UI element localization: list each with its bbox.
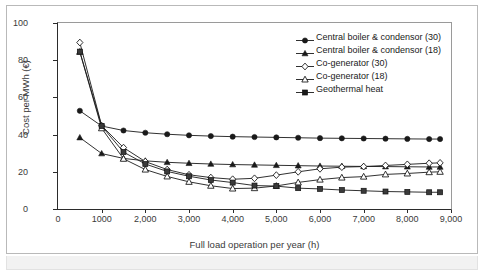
data-point — [405, 136, 410, 141]
data-point — [427, 190, 432, 195]
data-point — [426, 160, 432, 167]
filled-triangle-icon — [294, 45, 316, 56]
data-point — [77, 49, 82, 54]
y-tick-label: 60 — [0, 93, 28, 102]
figure-caption-band — [6, 256, 478, 270]
data-point — [77, 134, 83, 139]
x-tick-label: 8,000 — [385, 215, 429, 224]
series-line — [80, 111, 440, 139]
data-point — [274, 135, 279, 140]
data-point — [438, 190, 443, 195]
legend-label: Central boiler & condensor (30) — [316, 32, 441, 43]
data-point — [186, 133, 191, 138]
x-tick-label: 7,000 — [342, 215, 386, 224]
x-tick-label: 1000 — [80, 215, 124, 224]
x-tick-label: 9,000 — [429, 215, 473, 224]
y-tick-label: 40 — [0, 131, 28, 140]
y-tick-label: 80 — [0, 56, 28, 65]
data-point — [252, 134, 257, 139]
data-point — [208, 133, 213, 138]
legend-label: Co-generator (18) — [316, 71, 388, 82]
open-diamond-icon — [294, 58, 316, 69]
data-point — [339, 164, 345, 171]
data-point — [437, 159, 443, 166]
data-point — [230, 180, 235, 185]
data-point — [274, 184, 279, 189]
series-1 — [77, 108, 442, 141]
x-tick-label: 3,000 — [167, 215, 211, 224]
legend-item-4: Co-generator (18) — [294, 70, 441, 83]
legend-label: Geothermal heat — [316, 84, 383, 95]
legend-item-1: Central boiler & condensor (30) — [294, 31, 441, 44]
x-tick-label: 6,000 — [298, 215, 342, 224]
legend-item-5: Geothermal heat — [294, 83, 441, 96]
data-point — [121, 128, 126, 133]
x-tick-label: 4,000 — [211, 215, 255, 224]
legend-item-3: Co-generator (30) — [294, 57, 441, 70]
data-point — [383, 189, 388, 194]
data-point — [296, 186, 301, 191]
data-point — [405, 189, 410, 194]
x-tick-label: 2,000 — [123, 215, 167, 224]
data-point — [99, 150, 105, 155]
x-tick-label: 0 — [36, 215, 80, 224]
x-axis-label: Full load operation per year (h) — [57, 239, 452, 250]
data-point — [339, 136, 344, 141]
chart-page: Cost per MWh (€) Full load operation per… — [0, 0, 484, 274]
data-point — [295, 168, 301, 175]
legend-label: Central boiler & condensor (18) — [316, 45, 441, 56]
data-point — [230, 134, 235, 139]
y-tick-label: 100 — [0, 19, 28, 28]
data-point — [361, 188, 366, 193]
chart-legend: Central boiler & condensor (30)Central b… — [291, 28, 445, 99]
data-point — [251, 175, 257, 182]
data-point — [121, 150, 126, 155]
data-point — [143, 161, 148, 166]
data-point — [273, 172, 279, 179]
data-point — [143, 130, 148, 135]
data-point — [383, 136, 388, 141]
open-triangle-icon — [294, 71, 316, 82]
data-point — [437, 136, 442, 141]
y-tick-label: 0 — [0, 205, 28, 214]
filled-square-icon — [294, 84, 316, 95]
data-point — [208, 177, 213, 182]
data-point — [252, 183, 257, 188]
data-point — [99, 124, 104, 129]
data-point — [317, 136, 322, 141]
legend-item-2: Central boiler & condensor (18) — [294, 44, 441, 57]
filled-circle-icon — [294, 32, 316, 43]
data-point — [77, 39, 83, 46]
data-point — [187, 174, 192, 179]
data-point — [142, 166, 148, 172]
data-point — [318, 186, 323, 191]
y-tick-label: 20 — [0, 168, 28, 177]
data-point — [361, 136, 366, 141]
legend-label: Co-generator (30) — [316, 58, 388, 69]
data-point — [427, 136, 432, 141]
data-point — [165, 169, 170, 174]
data-point — [296, 135, 301, 140]
data-point — [165, 132, 170, 137]
data-point — [77, 108, 82, 113]
x-tick-label: 5,000 — [254, 215, 298, 224]
data-point — [339, 188, 344, 193]
